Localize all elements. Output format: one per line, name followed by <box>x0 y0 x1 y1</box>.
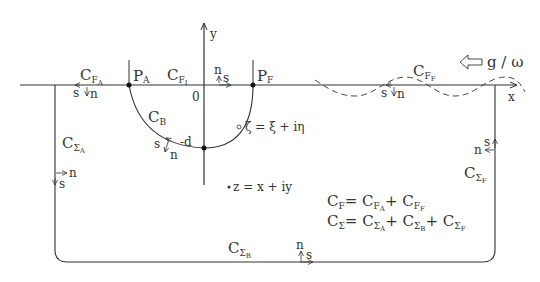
point-zeta <box>237 125 241 129</box>
pf-label: PF <box>257 67 273 85</box>
point-pa <box>127 83 132 88</box>
point-bottom <box>202 146 207 151</box>
cff-n-label: n <box>397 87 405 101</box>
csb-n-label: n <box>296 238 304 252</box>
cff-s-label: s <box>381 86 387 100</box>
outer-boundary <box>55 85 495 262</box>
csf-n-label: n <box>474 143 482 157</box>
equation-cf: CF= CFA+ CFF <box>327 192 425 213</box>
csa-n-label: n <box>69 166 77 180</box>
cfa-label: CFA <box>80 66 104 87</box>
cb-n-label: n <box>170 148 178 162</box>
csb-s-label: s <box>306 248 312 262</box>
cfi-label: CFI <box>167 66 188 87</box>
point-z <box>228 186 231 189</box>
z-label: z = x + iy <box>233 180 292 194</box>
cb-s-label: s <box>154 137 160 151</box>
zeta-label: ζ = ξ + iη <box>245 120 305 134</box>
cfi-s-label: s <box>223 71 229 85</box>
origin-label: 0 <box>192 90 200 104</box>
depth-label: -d <box>180 135 192 149</box>
point-pf <box>251 83 256 88</box>
y-axis-label: y <box>209 27 217 41</box>
equation-csigma: CΣ= CΣA+ CΣB+ CΣF <box>327 212 466 233</box>
contour-diagram: g / ω y x 0 -d PA PF CFA CFI CFF CB CΣA … <box>0 0 540 282</box>
incoming-wave-label: g / ω <box>487 53 523 71</box>
cb-n-arrow <box>165 142 168 152</box>
csf-s-label: s <box>484 135 490 149</box>
csb-label: CΣB <box>228 239 251 260</box>
csa-s-label: s <box>59 177 65 191</box>
csf-label: CΣF <box>464 164 487 185</box>
cff-label: CFF <box>413 62 436 83</box>
cfi-n-label: n <box>214 63 222 77</box>
csa-label: CΣA <box>62 134 86 155</box>
x-axis-label: x <box>508 90 515 104</box>
cb-label: CB <box>148 108 166 127</box>
cfa-n-label: n <box>90 87 98 101</box>
cfa-s-label: s <box>73 86 79 100</box>
incoming-wave-arrow-icon <box>460 55 482 69</box>
pa-label: PA <box>133 67 150 85</box>
